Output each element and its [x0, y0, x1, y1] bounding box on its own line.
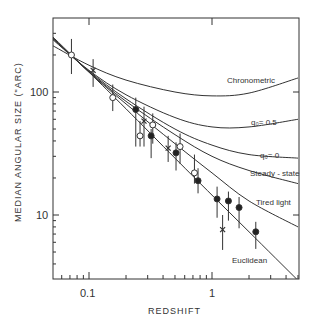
data-point-filled-circle — [225, 192, 231, 221]
data-points — [68, 39, 258, 250]
filled-circle-marker — [214, 196, 220, 202]
open-circle-marker — [137, 133, 143, 139]
open-circle-marker — [191, 170, 197, 176]
curve-label-steady-state: Steady - state — [250, 169, 300, 178]
curve-label-chronometric: Chronometric — [227, 76, 275, 85]
y-axis-label: MEDIAN ANGULAR SIZE ("ARC) — [13, 62, 23, 222]
data-point-open-circle — [177, 133, 183, 163]
filled-circle-marker — [225, 198, 231, 204]
angular-size-redshift-chart: 0.1 1 100 10 REDSHIFT MEDIAN ANGULAR SIZ… — [0, 0, 313, 322]
open-circle-marker — [150, 122, 156, 128]
filled-circle-marker — [253, 229, 259, 235]
curve-label-tired-light: Tired light — [256, 198, 292, 207]
x-tick-label-0.1: 0.1 — [80, 287, 95, 299]
curve-label-euclidean: Euclidean — [232, 256, 267, 265]
curve-q0-0 — [52, 38, 298, 158]
filled-circle-marker — [173, 150, 179, 156]
filled-circle-marker — [133, 107, 139, 113]
y-tick-label-100: 100 — [30, 86, 48, 98]
data-point-filled-circle — [133, 98, 139, 147]
open-circle-marker — [177, 144, 183, 150]
x-axis-label: REDSHIFT — [148, 306, 201, 316]
y-tick-label-10: 10 — [36, 209, 48, 221]
data-point-open-circle — [68, 39, 74, 74]
x-tick-label-1: 1 — [209, 287, 215, 299]
filled-circle-marker — [236, 205, 242, 211]
open-circle-marker — [68, 52, 74, 58]
data-point-filled-circle — [253, 222, 259, 249]
filled-circle-marker — [148, 133, 154, 139]
curve-steady-state — [52, 37, 298, 183]
data-point-cross — [220, 215, 225, 250]
open-circle-marker — [110, 95, 116, 101]
curve-label-q0-0.5: q₀= 0.5 — [251, 118, 277, 127]
filled-circle-marker — [195, 178, 201, 184]
curve-label-q0-0: q₀= 0 — [260, 151, 280, 160]
